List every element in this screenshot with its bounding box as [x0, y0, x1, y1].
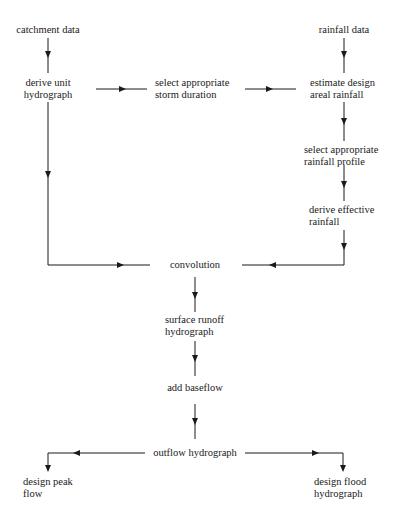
- arrowhead-down-icon: [192, 355, 198, 362]
- node-label-line-2: flow: [23, 488, 73, 500]
- node-design-peak-flow: design peak flow: [23, 476, 73, 500]
- edge-effective-rainfall-to-convolution: [242, 230, 344, 265]
- node-label-line-2: rainfall: [309, 216, 374, 228]
- node-select-storm-duration: select appropriate storm duration: [155, 77, 229, 101]
- arrowhead-down-icon: [45, 171, 51, 178]
- node-label-line-1: design peak: [23, 476, 73, 488]
- edge-outflow-to-flood-hydrograph: [245, 453, 343, 470]
- node-outflow-hydrograph: outflow hydrograph: [145, 447, 245, 459]
- arrowhead-down-icon: [45, 465, 51, 472]
- arrowhead-left-icon: [73, 450, 80, 456]
- node-label: rainfall data: [304, 24, 384, 36]
- node-label: convolution: [155, 259, 235, 271]
- edge-unit-hydrograph-to-convolution: [48, 102, 150, 265]
- arrowhead-down-icon: [341, 181, 347, 188]
- node-label-line-2: areal rainfall: [310, 89, 375, 101]
- node-derive-effective-rainfall: derive effective rainfall: [309, 204, 374, 228]
- arrowhead-down-icon: [45, 51, 51, 58]
- node-label-line-1: estimate design: [310, 77, 375, 89]
- node-label-line-1: select appropriate: [304, 144, 378, 156]
- node-label-line-2: hydrograph: [8, 89, 88, 101]
- node-label-line-2: rainfall profile: [304, 156, 378, 168]
- node-select-rainfall-profile: select appropriate rainfall profile: [304, 144, 378, 168]
- node-label-line-1: derive effective: [309, 204, 374, 216]
- node-label-line-1: design flood: [314, 476, 366, 488]
- node-derive-unit-hydrograph: derive unit hydrograph: [8, 77, 88, 101]
- node-label: add baseflow: [155, 382, 235, 394]
- node-label-line-2: storm duration: [155, 89, 229, 101]
- edge-outflow-to-peak-flow: [48, 453, 145, 470]
- arrowhead-down-icon: [341, 51, 347, 58]
- arrowhead-down-icon: [341, 243, 347, 250]
- arrowhead-right-icon: [119, 86, 126, 92]
- node-label-line-2: hydrograph: [165, 326, 224, 338]
- node-design-flood-hydrograph: design flood hydrograph: [314, 476, 366, 500]
- node-label: outflow hydrograph: [145, 447, 245, 459]
- arrowhead-down-icon: [192, 292, 198, 299]
- arrowhead-down-icon: [192, 418, 198, 425]
- arrowhead-down-icon: [341, 118, 347, 125]
- arrowhead-left-icon: [269, 262, 276, 268]
- node-label-line-1: select appropriate: [155, 77, 229, 89]
- node-rainfall-data: rainfall data: [304, 24, 384, 36]
- node-estimate-areal-rainfall: estimate design areal rainfall: [310, 77, 375, 101]
- node-label-line-1: surface runoff: [165, 314, 224, 326]
- node-catchment-data: catchment data: [6, 24, 90, 36]
- node-label-line-2: hydrograph: [314, 488, 366, 500]
- node-add-baseflow: add baseflow: [155, 382, 235, 394]
- arrowhead-right-icon: [266, 86, 273, 92]
- node-surface-runoff-hydrograph: surface runoff hydrograph: [165, 314, 224, 338]
- arrowhead-right-icon: [312, 450, 319, 456]
- arrowhead-down-icon: [340, 465, 346, 472]
- node-label: catchment data: [6, 24, 90, 36]
- node-convolution: convolution: [155, 259, 235, 271]
- arrowhead-right-icon: [117, 262, 124, 268]
- node-label-line-1: derive unit: [8, 77, 88, 89]
